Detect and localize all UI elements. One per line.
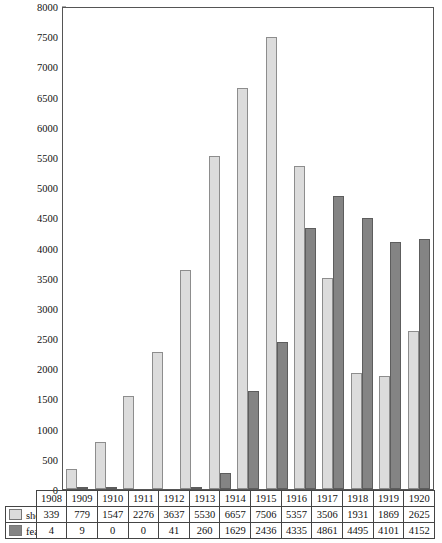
bar-shorts-1915 xyxy=(266,37,277,489)
bar-features-1920 xyxy=(419,239,430,489)
y-axis-tick-label: 4000 xyxy=(37,243,58,254)
table-cell-shorts-1914: 6657 xyxy=(220,507,251,523)
table-cell-shorts-1910: 1547 xyxy=(97,507,128,523)
bar-features-1913 xyxy=(220,473,231,489)
legend-swatch-shorts xyxy=(9,509,22,520)
table-header-year-1914: 1914 xyxy=(220,491,251,507)
table-cell-shorts-1909: 779 xyxy=(67,507,98,523)
table-cell-shorts-1911: 2276 xyxy=(128,507,159,523)
table-header-year-1917: 1917 xyxy=(312,491,343,507)
y-axis-tick-label: 7500 xyxy=(37,32,58,43)
bar-shorts-1908 xyxy=(66,469,77,489)
bar-shorts-1916 xyxy=(294,166,305,489)
bar-shorts-1914 xyxy=(237,88,248,489)
y-axis-tick-label: 3500 xyxy=(37,273,58,284)
figure-container: 0500100015002000250030003500400045005000… xyxy=(0,0,442,543)
table-header-year-1912: 1912 xyxy=(159,491,190,507)
table-header-year-1909: 1909 xyxy=(67,491,98,507)
bar-features-1916 xyxy=(305,228,316,489)
table-cell-shorts-1915: 7506 xyxy=(251,507,282,523)
table-header-year-1913: 1913 xyxy=(189,491,220,507)
bar-features-1919 xyxy=(390,242,401,489)
table-header-year-1920: 1920 xyxy=(404,491,435,507)
y-axis-tick-label: 8000 xyxy=(37,2,58,13)
y-axis-tick-label: 7000 xyxy=(37,62,58,73)
bar-group xyxy=(291,8,319,489)
bar-series-container xyxy=(63,8,433,489)
table-header-year-1918: 1918 xyxy=(343,491,374,507)
y-axis-tick-label: 2000 xyxy=(37,364,58,375)
table-cell-shorts-1920: 2625 xyxy=(404,507,435,523)
y-axis-tick-label: 500 xyxy=(42,454,58,465)
table-header-row: 1908190919101911191219131914191519161917… xyxy=(6,491,435,507)
table-header-year-1908: 1908 xyxy=(36,491,67,507)
y-axis-tick-label: 3000 xyxy=(37,303,58,314)
plot-area xyxy=(62,7,434,490)
bar-shorts-1911 xyxy=(152,352,163,489)
bar-group xyxy=(63,8,91,489)
bar-group xyxy=(319,8,347,489)
table-header-year-1919: 1919 xyxy=(373,491,404,507)
y-axis-tick-label: 4500 xyxy=(37,213,58,224)
bar-shorts-1919 xyxy=(379,376,390,489)
bar-features-1912 xyxy=(191,487,202,489)
y-axis-tick-label: 5500 xyxy=(37,152,58,163)
y-axis: 0500100015002000250030003500400045005000… xyxy=(0,0,62,497)
bar-group xyxy=(148,8,176,489)
table-row: shorts3397791547227636375530665775065357… xyxy=(6,507,435,523)
table-header-year-1911: 1911 xyxy=(128,491,159,507)
table-cell-shorts-1919: 1869 xyxy=(373,507,404,523)
bar-group xyxy=(348,8,376,489)
y-axis-tick-label: 6000 xyxy=(37,122,58,133)
bar-features-1918 xyxy=(362,218,373,489)
bar-features-1908 xyxy=(77,487,88,489)
bar-shorts-1917 xyxy=(322,278,333,489)
bar-features-1915 xyxy=(277,342,288,489)
bar-group xyxy=(405,8,433,489)
bar-shorts-1913 xyxy=(209,156,220,489)
bar-group xyxy=(91,8,119,489)
y-axis-tick-label: 6500 xyxy=(37,92,58,103)
bar-group xyxy=(376,8,404,489)
bar-features-1909 xyxy=(106,487,117,489)
figure-caption xyxy=(5,532,437,543)
y-axis-tick-label: 5000 xyxy=(37,183,58,194)
table-cell-shorts-1912: 3637 xyxy=(159,507,190,523)
bar-shorts-1910 xyxy=(123,396,134,489)
bar-shorts-1909 xyxy=(95,442,106,489)
bar-group xyxy=(234,8,262,489)
bar-group xyxy=(262,8,290,489)
legend-item-shorts: shorts xyxy=(6,507,37,523)
table-cell-shorts-1918: 1931 xyxy=(343,507,374,523)
bar-features-1917 xyxy=(333,196,344,489)
bar-features-1914 xyxy=(248,391,259,489)
y-axis-tick-label: 1500 xyxy=(37,394,58,405)
y-axis-tick-label: 2500 xyxy=(37,334,58,345)
table-header-year-1915: 1915 xyxy=(251,491,282,507)
bar-group xyxy=(120,8,148,489)
bar-shorts-1918 xyxy=(351,373,362,489)
table-cell-shorts-1908: 339 xyxy=(36,507,67,523)
bar-shorts-1912 xyxy=(180,270,191,489)
legend-label-shorts: shorts xyxy=(26,510,36,521)
y-axis-tick-label: 1000 xyxy=(37,424,58,435)
bar-group xyxy=(205,8,233,489)
table-cell-shorts-1916: 5357 xyxy=(281,507,312,523)
table-corner-cell xyxy=(6,491,37,507)
table-cell-shorts-1913: 5530 xyxy=(189,507,220,523)
table-cell-shorts-1917: 3506 xyxy=(312,507,343,523)
bar-shorts-1920 xyxy=(408,331,419,489)
table-header-year-1916: 1916 xyxy=(281,491,312,507)
table-header-year-1910: 1910 xyxy=(97,491,128,507)
bar-group xyxy=(177,8,205,489)
